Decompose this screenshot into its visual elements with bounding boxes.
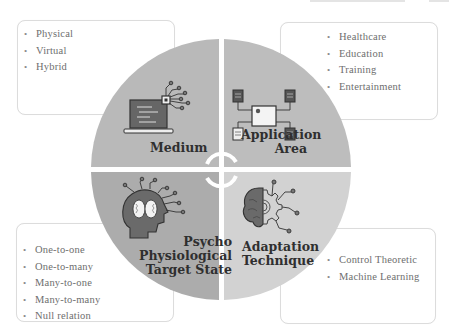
page-header-fragment bbox=[300, 0, 451, 4]
item-label: One-to-many bbox=[35, 261, 93, 272]
medium-options-list: •Physical •Virtual •Hybrid bbox=[24, 26, 73, 76]
bullet-icon: • bbox=[24, 27, 30, 43]
list-item: •Many-to-one bbox=[23, 275, 100, 292]
adaptation-quadrant bbox=[224, 172, 351, 300]
label-line: Physiological bbox=[132, 249, 232, 263]
label-line: Technique bbox=[242, 254, 308, 268]
label-line: Area bbox=[241, 142, 307, 156]
item-label: Hybrid bbox=[36, 61, 67, 72]
label-line: Psycho bbox=[132, 235, 232, 249]
bullet-icon: • bbox=[23, 293, 29, 309]
item-label: Virtual bbox=[36, 45, 67, 56]
item-label: Physical bbox=[36, 28, 73, 39]
bullet-icon: • bbox=[23, 276, 29, 292]
bullet-icon: • bbox=[24, 44, 30, 60]
bullet-icon: • bbox=[23, 309, 29, 325]
psycho-physiological-target-state-label: Psycho Physiological Target State bbox=[132, 235, 232, 277]
page-number-fragment bbox=[429, 0, 449, 2]
psycho-physiological-options-list: •One-to-one •One-to-many •Many-to-one •M… bbox=[23, 242, 100, 325]
item-label: Null relation bbox=[35, 310, 91, 321]
adaptation-technique-label: Adaptation Technique bbox=[242, 240, 308, 268]
label-line: Medium bbox=[150, 141, 208, 155]
application-area-label: Application Area bbox=[241, 128, 307, 156]
list-item: •Null relation bbox=[23, 308, 100, 325]
medium-label: Medium bbox=[150, 141, 208, 155]
bullet-icon: • bbox=[24, 60, 30, 76]
list-item: •One-to-many bbox=[23, 259, 100, 276]
bullet-icon: • bbox=[23, 260, 29, 276]
list-item: •Physical bbox=[24, 26, 73, 43]
item-label: Many-to-one bbox=[35, 277, 92, 288]
label-line: Adaptation bbox=[242, 240, 308, 254]
list-item: •One-to-one bbox=[23, 242, 100, 259]
cycle-arrows-icon bbox=[207, 154, 236, 187]
bullet-icon: • bbox=[23, 243, 29, 259]
item-label: One-to-one bbox=[35, 244, 85, 255]
label-line: Application bbox=[241, 128, 307, 142]
running-header-line bbox=[310, 0, 405, 2]
list-item: •Virtual bbox=[24, 43, 73, 60]
label-line: Target State bbox=[132, 263, 232, 277]
list-item: •Hybrid bbox=[24, 59, 73, 76]
list-item: •Many-to-many bbox=[23, 292, 100, 309]
